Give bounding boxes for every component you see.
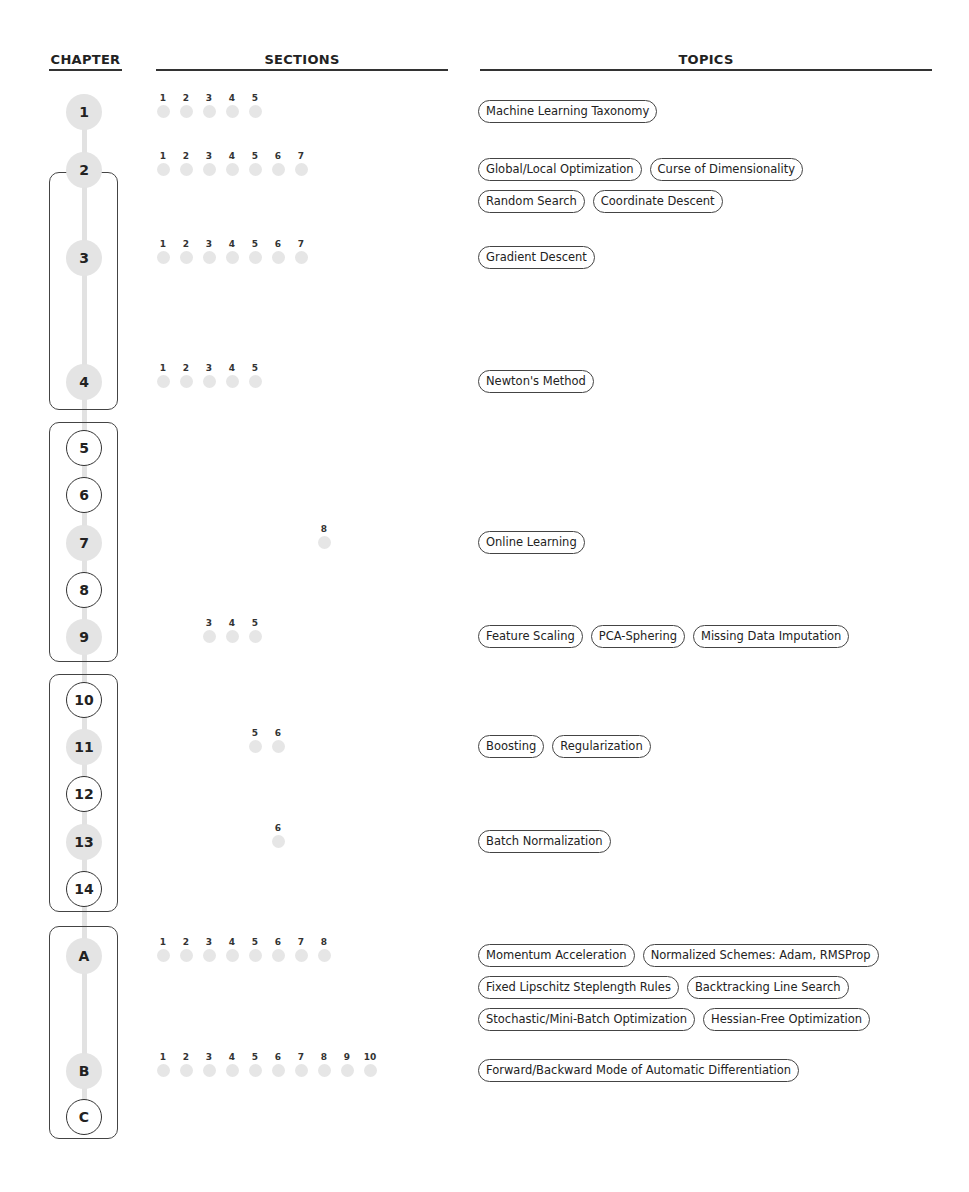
section-marker[interactable]: 6 [271, 151, 285, 176]
chapter-node-a[interactable]: A [66, 938, 102, 974]
section-marker[interactable]: 3 [202, 151, 216, 176]
section-number: 5 [248, 937, 262, 949]
topic-pill[interactable]: Fixed Lipschitz Steplength Rules [478, 976, 679, 999]
topic-pill[interactable]: Gradient Descent [478, 246, 595, 269]
topic-row: Gradient Descent [478, 246, 595, 269]
chapter-node-4[interactable]: 4 [66, 364, 102, 400]
section-marker[interactable]: 7 [294, 937, 308, 962]
chapter-node-b[interactable]: B [66, 1053, 102, 1089]
section-number: 6 [271, 937, 285, 949]
section-marker[interactable]: 4 [225, 937, 239, 962]
section-marker[interactable]: 2 [179, 363, 193, 388]
section-marker[interactable]: 6 [271, 728, 285, 753]
chapter-node-6[interactable]: 6 [66, 477, 102, 513]
section-marker[interactable]: 2 [179, 1052, 193, 1077]
section-marker[interactable]: 7 [294, 239, 308, 264]
section-dot-icon [180, 105, 193, 118]
topic-pill[interactable]: Boosting [478, 735, 544, 758]
topic-pill[interactable]: Batch Normalization [478, 830, 611, 853]
section-dot-icon [318, 949, 331, 962]
section-marker[interactable]: 3 [202, 618, 216, 643]
section-marker[interactable]: 4 [225, 1052, 239, 1077]
section-number: 3 [202, 1052, 216, 1064]
chapter-node-1[interactable]: 1 [66, 94, 102, 130]
topic-row: Newton's Method [478, 370, 594, 393]
section-dot-icon [203, 163, 216, 176]
topic-pill[interactable]: Stochastic/Mini-Batch Optimization [478, 1008, 695, 1031]
section-marker[interactable]: 5 [248, 363, 262, 388]
section-dot-icon [249, 630, 262, 643]
section-marker[interactable]: 2 [179, 239, 193, 264]
section-marker[interactable]: 7 [294, 151, 308, 176]
section-marker[interactable]: 2 [179, 93, 193, 118]
section-marker[interactable]: 5 [248, 618, 262, 643]
section-marker[interactable]: 3 [202, 937, 216, 962]
chapter-node-2[interactable]: 2 [66, 152, 102, 188]
topic-pill[interactable]: Global/Local Optimization [478, 158, 642, 181]
topic-pill[interactable]: Regularization [552, 735, 650, 758]
chapter-node-8[interactable]: 8 [66, 572, 102, 608]
chapter-node-c[interactable]: C [66, 1099, 102, 1135]
section-marker[interactable]: 8 [317, 1052, 331, 1077]
chapter-node-7[interactable]: 7 [66, 525, 102, 561]
section-marker[interactable]: 3 [202, 239, 216, 264]
section-marker[interactable]: 5 [248, 728, 262, 753]
section-dot-icon [180, 375, 193, 388]
section-marker[interactable]: 3 [202, 363, 216, 388]
topic-pill[interactable]: Online Learning [478, 531, 585, 554]
section-marker[interactable]: 5 [248, 93, 262, 118]
section-marker[interactable]: 6 [271, 823, 285, 848]
section-marker[interactable]: 3 [202, 1052, 216, 1077]
section-marker[interactable]: 5 [248, 937, 262, 962]
section-marker[interactable]: 4 [225, 93, 239, 118]
section-number: 5 [248, 1052, 262, 1064]
chapter-node-5[interactable]: 5 [66, 430, 102, 466]
topic-pill[interactable]: PCA-Sphering [591, 625, 685, 648]
section-marker[interactable]: 3 [202, 93, 216, 118]
section-marker[interactable]: 5 [248, 239, 262, 264]
section-number: 4 [225, 93, 239, 105]
topic-pill[interactable]: Newton's Method [478, 370, 594, 393]
section-marker[interactable]: 6 [271, 239, 285, 264]
topic-pill[interactable]: Momentum Acceleration [478, 944, 635, 967]
topic-pill[interactable]: Machine Learning Taxonomy [478, 100, 657, 123]
section-marker[interactable]: 2 [179, 937, 193, 962]
topic-pill[interactable]: Forward/Backward Mode of Automatic Diffe… [478, 1059, 799, 1082]
topic-pill[interactable]: Normalized Schemes: Adam, RMSProp [643, 944, 879, 967]
chapter-node-12[interactable]: 12 [66, 776, 102, 812]
section-marker[interactable]: 4 [225, 239, 239, 264]
section-marker[interactable]: 9 [340, 1052, 354, 1077]
section-dot-icon [272, 1064, 285, 1077]
topic-pill[interactable]: Hessian-Free Optimization [703, 1008, 870, 1031]
topic-pill[interactable]: Curse of Dimensionality [650, 158, 803, 181]
section-marker[interactable]: 5 [248, 151, 262, 176]
topic-pill[interactable]: Feature Scaling [478, 625, 583, 648]
section-marker[interactable]: 8 [317, 524, 331, 549]
section-marker[interactable]: 1 [156, 1052, 170, 1077]
section-marker[interactable]: 1 [156, 937, 170, 962]
section-marker[interactable]: 6 [271, 1052, 285, 1077]
section-marker[interactable]: 7 [294, 1052, 308, 1077]
section-marker[interactable]: 2 [179, 151, 193, 176]
topic-pill[interactable]: Missing Data Imputation [693, 625, 849, 648]
section-marker[interactable]: 4 [225, 151, 239, 176]
chapter-node-11[interactable]: 11 [66, 729, 102, 765]
section-marker[interactable]: 1 [156, 239, 170, 264]
section-marker[interactable]: 1 [156, 363, 170, 388]
section-marker[interactable]: 10 [363, 1052, 377, 1077]
section-marker[interactable]: 5 [248, 1052, 262, 1077]
topic-pill[interactable]: Coordinate Descent [593, 190, 723, 213]
chapter-node-9[interactable]: 9 [66, 619, 102, 655]
section-marker[interactable]: 1 [156, 93, 170, 118]
chapter-node-10[interactable]: 10 [66, 682, 102, 718]
section-marker[interactable]: 4 [225, 363, 239, 388]
topic-pill[interactable]: Backtracking Line Search [687, 976, 849, 999]
section-marker[interactable]: 8 [317, 937, 331, 962]
chapter-node-13[interactable]: 13 [66, 824, 102, 860]
section-marker[interactable]: 4 [225, 618, 239, 643]
chapter-node-14[interactable]: 14 [66, 871, 102, 907]
topic-pill[interactable]: Random Search [478, 190, 585, 213]
chapter-node-3[interactable]: 3 [66, 240, 102, 276]
section-marker[interactable]: 1 [156, 151, 170, 176]
section-marker[interactable]: 6 [271, 937, 285, 962]
